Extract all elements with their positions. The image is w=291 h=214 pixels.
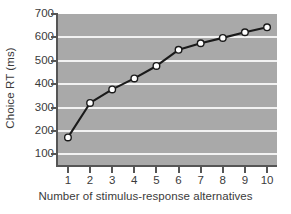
y-tick-mark [51, 130, 57, 132]
data-point-marker [87, 100, 94, 107]
x-tick-mark [222, 167, 224, 173]
plot-area [58, 14, 277, 165]
series-line [68, 27, 267, 137]
x-tick-mark [155, 167, 157, 173]
x-axis-title: Number of stimulus-response alternatives [0, 190, 291, 202]
x-tick-mark [266, 167, 268, 173]
x-axis-tick-labels: 12345678910 [0, 174, 291, 188]
x-tick-mark [67, 167, 69, 173]
y-tick-label: 100 [16, 148, 54, 159]
y-tick-label: 600 [16, 31, 54, 42]
y-tick-mark [51, 60, 57, 62]
y-tick-label: 700 [16, 8, 54, 19]
data-point-marker [65, 134, 72, 141]
y-tick-mark [51, 107, 57, 109]
data-point-marker [175, 47, 182, 54]
data-point-marker [109, 86, 116, 93]
x-tick-mark [133, 167, 135, 173]
x-tick-mark [200, 167, 202, 173]
data-point-marker [264, 24, 271, 31]
y-tick-label: 200 [16, 125, 54, 136]
chart-figure: Choice RT (ms) 700600500400300200100 123… [0, 0, 291, 214]
x-tick-mark [178, 167, 180, 173]
y-tick-label: 500 [16, 55, 54, 66]
y-tick-label: 400 [16, 78, 54, 89]
data-point-marker [131, 75, 138, 82]
x-tick-mark [89, 167, 91, 173]
y-tick-mark [51, 36, 57, 38]
x-tick-mark [111, 167, 113, 173]
x-tick-label: 10 [254, 174, 280, 187]
y-tick-mark [51, 83, 57, 85]
data-point-marker [153, 63, 160, 70]
y-tick-mark [51, 13, 57, 15]
data-point-marker [197, 40, 204, 47]
y-tick-mark [51, 153, 57, 155]
data-point-marker [242, 29, 249, 36]
x-tick-mark [244, 167, 246, 173]
data-series-line [58, 14, 277, 165]
y-tick-label: 300 [16, 102, 54, 113]
data-point-marker [220, 35, 227, 42]
